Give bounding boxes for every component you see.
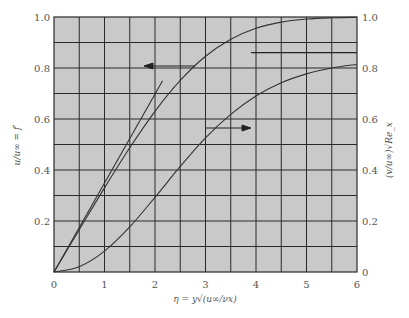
y-left-tick-label: 0.4 [34,165,50,176]
y-right-tick-label: 0.6 [362,114,378,125]
x-tick-label: 2 [152,279,158,290]
x-tick-label: 1 [101,279,107,290]
boundary-layer-chart: 01234560.20.40.60.81.000.20.40.60.81.0 u… [0,0,409,318]
y-left-tick-label: 0.6 [34,114,50,125]
x-tick-label: 3 [202,279,208,290]
right-label-text: (v/u∞)√Re_x [384,122,395,178]
y-right-tick-label: 0.2 [362,216,378,227]
y-left-tick-label: 0.2 [34,216,50,227]
x-tick-label: 6 [354,279,360,290]
y-right-tick-label: 0 [362,267,368,278]
y-left-tick-label: 1.0 [34,12,50,23]
svg-text:(v/u∞)√Re_x: (v/u∞)√Re_x [384,122,395,178]
x-tick-label: 0 [51,279,57,290]
x-tick-label: 5 [303,279,309,290]
y-right-tick-label: 0.8 [362,63,378,74]
x-axis-label: η = y√(u∞/νx) [173,294,237,304]
svg-text:u/u∞ = f′: u/u∞ = f′ [12,125,22,166]
y-left-tick-label: 0.8 [34,63,50,74]
left-label-text: u/u∞ = f′ [12,125,22,166]
y-axis-label-left: u/u∞ = f′ [12,125,22,166]
y-axis-label-right: (v/u∞)√Re_x [384,122,395,178]
y-right-tick-label: 1.0 [362,12,378,23]
x-tick-label: 4 [253,279,259,290]
y-right-tick-label: 0.4 [362,165,378,176]
